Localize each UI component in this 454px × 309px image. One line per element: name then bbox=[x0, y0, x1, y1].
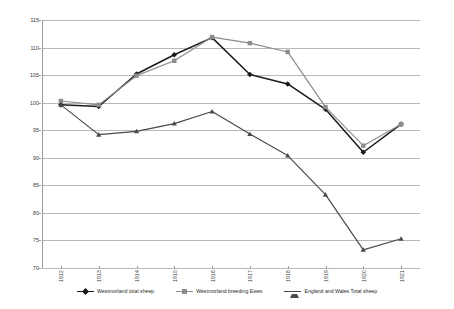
data-point-marker bbox=[323, 105, 327, 109]
y-tick-mark bbox=[38, 75, 41, 76]
series-westmorland-breeding-ewes bbox=[59, 35, 404, 148]
data-point-marker bbox=[361, 143, 365, 147]
legend-label: Westmorland breeding Ewes bbox=[196, 288, 262, 294]
data-point-marker bbox=[247, 131, 252, 136]
x-tick-mark bbox=[401, 266, 402, 269]
data-point-marker bbox=[286, 50, 290, 54]
x-tick-label: 1920 bbox=[361, 270, 367, 282]
legend-item[interactable]: England and Wales Total sheep bbox=[284, 288, 377, 294]
x-tick-label: 1921 bbox=[399, 270, 405, 282]
x-tick-mark bbox=[137, 266, 138, 269]
x-tick-mark bbox=[99, 266, 100, 269]
data-point-marker bbox=[285, 153, 290, 158]
y-tick-mark bbox=[38, 158, 41, 159]
x-tick-label: 1912 bbox=[58, 270, 64, 282]
x-tick-label: 1917 bbox=[247, 270, 253, 282]
y-axis: 707580859095100105110115 bbox=[0, 20, 39, 268]
data-point-marker bbox=[97, 103, 101, 107]
x-tick-mark bbox=[212, 266, 213, 269]
x-tick-label: 1914 bbox=[134, 270, 140, 282]
data-point-marker bbox=[172, 59, 176, 63]
y-tick-mark bbox=[38, 103, 41, 104]
data-point-marker bbox=[248, 41, 252, 45]
x-tick-mark bbox=[61, 266, 62, 269]
x-tick-mark bbox=[363, 266, 364, 269]
data-point-marker bbox=[399, 236, 404, 241]
x-tick-mark bbox=[174, 266, 175, 269]
x-tick-mark bbox=[326, 266, 327, 269]
y-tick-mark bbox=[38, 240, 41, 241]
legend-swatch-triangle-icon bbox=[284, 288, 301, 294]
y-tick-mark bbox=[38, 48, 41, 49]
x-tick-label: 1913 bbox=[96, 270, 102, 282]
x-tick-label: 1918 bbox=[285, 270, 291, 282]
line-chart: 707580859095100105110115 191219131914191… bbox=[0, 0, 454, 309]
legend-swatch-square-icon bbox=[176, 288, 193, 294]
legend-label: Westmorland total sheep bbox=[97, 288, 154, 294]
data-point-marker bbox=[134, 73, 138, 77]
y-tick-mark bbox=[38, 268, 41, 269]
x-tick-mark bbox=[288, 266, 289, 269]
x-tick-label: 1919 bbox=[323, 270, 329, 282]
data-point-marker bbox=[210, 109, 215, 114]
y-tick-mark bbox=[38, 130, 41, 131]
x-tick-label: 1915 bbox=[172, 270, 178, 282]
data-point-marker bbox=[210, 35, 214, 39]
series-england-and-wales-total-sheep bbox=[58, 102, 403, 252]
data-point-marker bbox=[399, 122, 403, 126]
chart-legend: Westmorland total sheepWestmorland breed… bbox=[0, 288, 454, 294]
legend-item[interactable]: Westmorland total sheep bbox=[77, 288, 154, 294]
x-tick-mark bbox=[250, 266, 251, 269]
data-point-marker bbox=[172, 52, 178, 58]
legend-label: England and Wales Total sheep bbox=[304, 288, 377, 294]
y-tick-mark bbox=[38, 213, 41, 214]
y-tick-mark bbox=[38, 20, 41, 21]
series-line bbox=[61, 37, 401, 146]
series-layer bbox=[42, 20, 420, 268]
y-tick-mark bbox=[38, 185, 41, 186]
legend-item[interactable]: Westmorland breeding Ewes bbox=[176, 288, 262, 294]
legend-swatch-diamond-icon bbox=[77, 288, 94, 294]
x-tick-label: 1916 bbox=[210, 270, 216, 282]
series-line bbox=[61, 105, 401, 250]
plot-area bbox=[42, 20, 420, 268]
series-westmorland-total-sheep bbox=[58, 35, 404, 155]
